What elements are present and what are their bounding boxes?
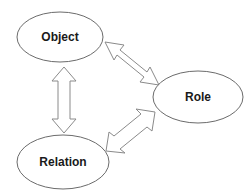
node-relation-label: Relation [39, 155, 86, 169]
node-object[interactable]: Object [17, 12, 103, 62]
double-arrow-vertical-shape [52, 67, 76, 133]
node-role[interactable]: Role [153, 71, 243, 123]
connector-object-role [105, 42, 159, 85]
diagram-canvas: Object Role Relation [0, 0, 247, 195]
node-role-label: Role [185, 90, 211, 104]
node-relation[interactable]: Relation [17, 135, 109, 189]
node-object-label: Object [41, 30, 78, 44]
double-arrow-diagonal-up-right-shape [106, 109, 155, 153]
connector-object-relation [52, 67, 76, 133]
double-arrow-diagonal-down-right-shape [105, 42, 159, 85]
connector-relation-role [106, 109, 155, 153]
diagram-svg: Object Role Relation [0, 0, 247, 195]
